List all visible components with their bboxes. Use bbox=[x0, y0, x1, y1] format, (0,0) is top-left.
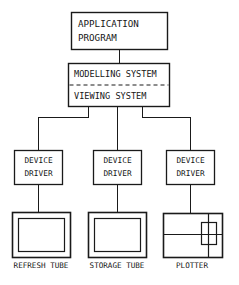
node-device-driver-right[interactable]: DEVICE DRIVER bbox=[167, 151, 215, 185]
device-plotter[interactable]: PLOTTER bbox=[164, 214, 223, 271]
device-driver-right-label-line2: DRIVER bbox=[176, 169, 204, 178]
device-driver-left-label-line2: DRIVER bbox=[24, 169, 52, 178]
device-driver-left-label-line1: DEVICE bbox=[24, 156, 52, 165]
diagram-canvas: APPLICATION PROGRAM MODELLING SYSTEM VIE… bbox=[0, 0, 239, 285]
node-system-box[interactable]: MODELLING SYSTEM VIEWING SYSTEM bbox=[69, 64, 170, 107]
block-diagram: APPLICATION PROGRAM MODELLING SYSTEM VIE… bbox=[0, 0, 239, 285]
device-driver-middle-label-line2: DRIVER bbox=[103, 169, 131, 178]
crt-display-icon bbox=[89, 213, 147, 258]
device-caption-plotter: PLOTTER bbox=[176, 261, 208, 270]
node-application-program[interactable]: APPLICATION PROGRAM bbox=[72, 13, 168, 50]
plotter-icon bbox=[164, 214, 223, 258]
connector-drivers-to-devices bbox=[39, 185, 191, 214]
device-caption-storage-tube: STORAGE TUBE bbox=[90, 261, 145, 270]
device-refresh-tube[interactable]: REFRESH TUBE bbox=[13, 213, 71, 271]
viewing-system-label: VIEWING SYSTEM bbox=[74, 91, 146, 101]
device-driver-right-label-line1: DEVICE bbox=[176, 156, 204, 165]
device-storage-tube[interactable]: STORAGE TUBE bbox=[89, 213, 147, 271]
node-device-driver-left[interactable]: DEVICE DRIVER bbox=[15, 151, 63, 185]
application-program-label-line2: PROGRAM bbox=[78, 32, 117, 43]
device-caption-refresh-tube: REFRESH TUBE bbox=[14, 261, 69, 270]
modelling-system-label: MODELLING SYSTEM bbox=[74, 69, 157, 79]
application-program-label-line1: APPLICATION bbox=[78, 18, 139, 29]
connector-system-to-drivers bbox=[39, 107, 191, 151]
device-driver-middle-label-line1: DEVICE bbox=[103, 156, 131, 165]
node-device-driver-middle[interactable]: DEVICE DRIVER bbox=[94, 151, 142, 185]
crt-display-icon bbox=[13, 213, 71, 258]
